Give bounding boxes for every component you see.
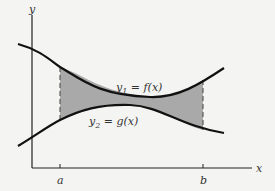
x-axis-label: x (256, 162, 263, 175)
bound-a-label: a (57, 174, 64, 187)
area-between-curves-diagram: y x a b y1 = f(x) y2 = g(x) (0, 0, 275, 191)
y-axis-label: y (28, 3, 36, 16)
curve-f-label: y1 = f(x) (115, 81, 162, 96)
curve-g-label: y2 = g(x) (88, 115, 138, 130)
bound-b-label: b (200, 174, 207, 187)
